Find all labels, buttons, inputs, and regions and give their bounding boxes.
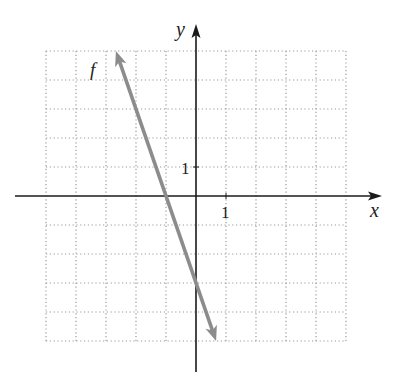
y-tick-label-1: 1 [181, 159, 190, 178]
x-axis-label: x [369, 199, 379, 221]
function-graph: y x 1 1 f [0, 0, 404, 387]
function-label-f: f [90, 59, 98, 80]
y-axis-label: y [174, 18, 185, 41]
axes [15, 24, 382, 372]
x-tick-label-1: 1 [221, 203, 230, 222]
